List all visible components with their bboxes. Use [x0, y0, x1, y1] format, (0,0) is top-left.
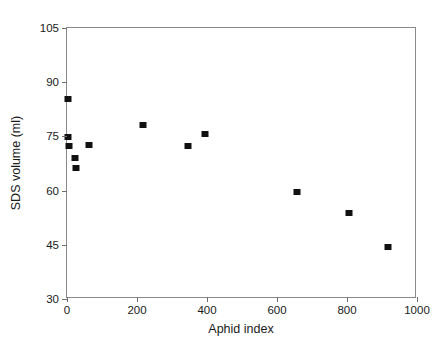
x-tick-mark — [417, 297, 418, 302]
data-point — [66, 143, 73, 149]
x-tick-mark — [137, 297, 138, 302]
data-point — [73, 165, 80, 171]
data-point — [384, 244, 391, 250]
x-tick-label: 600 — [267, 304, 286, 316]
scatter-chart-figure: 3045607590105 02004006008001000 Aphid in… — [0, 0, 446, 346]
x-tick-mark — [277, 297, 278, 302]
y-tick-label: 90 — [46, 76, 59, 88]
data-point — [72, 155, 79, 161]
y-tick-label: 105 — [40, 22, 59, 34]
y-tick-label: 30 — [46, 293, 59, 305]
y-tick-mark — [62, 82, 67, 83]
plot-area: 3045607590105 02004006008001000 — [66, 27, 416, 298]
y-tick-mark — [62, 245, 67, 246]
x-tick-mark — [347, 297, 348, 302]
x-tick-label: 1000 — [404, 304, 430, 316]
data-point — [293, 189, 300, 195]
x-tick-label: 200 — [127, 304, 146, 316]
y-tick-mark — [62, 28, 67, 29]
x-tick-mark — [207, 297, 208, 302]
data-point — [140, 122, 147, 128]
x-axis-title: Aphid index — [66, 322, 416, 336]
y-tick-mark — [62, 136, 67, 137]
y-tick-mark — [62, 191, 67, 192]
data-point — [346, 210, 353, 216]
x-tick-mark — [67, 297, 68, 302]
y-tick-label: 75 — [46, 130, 59, 142]
x-tick-label: 800 — [337, 304, 356, 316]
x-tick-label: 400 — [197, 304, 216, 316]
data-point — [64, 96, 71, 102]
x-tick-label: 0 — [64, 304, 70, 316]
y-tick-label: 45 — [46, 239, 59, 251]
y-tick-label: 60 — [46, 185, 59, 197]
data-point — [184, 143, 191, 149]
data-point — [86, 142, 93, 148]
y-axis-title: SDS volume (ml) — [8, 27, 24, 298]
y-axis-title-text: SDS volume (ml) — [9, 115, 23, 209]
data-point — [201, 131, 208, 137]
